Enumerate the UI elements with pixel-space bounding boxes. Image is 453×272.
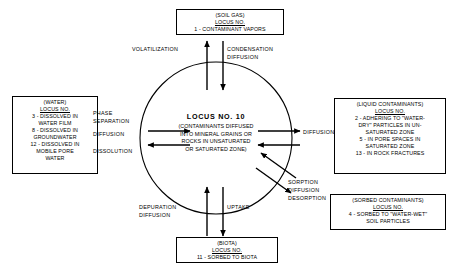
label-phase-separation: PHASE SEPARATION bbox=[93, 109, 129, 125]
box-biota-header: (BIOTA) bbox=[178, 240, 276, 247]
label-dissolution: DISSOLUTION bbox=[93, 147, 132, 155]
box-biota-locus-label: LOCUS NO. bbox=[178, 247, 276, 254]
box-water: (WATER) LOCUS NO. 3 - DISSOLVED IN WATER… bbox=[12, 96, 98, 174]
box-soil-gas-items: 1 - CONTAMINANT VAPORS bbox=[178, 26, 282, 33]
list-item: 12 - DISSOLVED IN MOBILE PORE WATER bbox=[14, 141, 96, 162]
box-biota-items: 11 - SORBED TO BIOTA bbox=[178, 254, 276, 261]
box-sorbed-contaminants: (SORBED CONTAMINANTS) LOCUS NO. 4 - SORB… bbox=[330, 194, 446, 230]
box-sorbed-contaminants-locus-label: LOCUS NO. bbox=[332, 204, 444, 211]
label-volatilization: VOLATILIZATION bbox=[132, 45, 178, 53]
list-item: 13 - IN ROCK FRACTURES bbox=[336, 150, 444, 157]
box-liquid-contaminants-items: 2 - ADHERING TO "WATER- DRY" PARTICLES I… bbox=[336, 115, 444, 157]
box-water-header: (WATER) bbox=[14, 99, 96, 106]
central-locus-subtitle: (CONTAMINANTS DIFFUSED INTO MINERAL GRAI… bbox=[150, 123, 282, 153]
list-item: 5 - IN PORE SPACES IN SATURATED ZONE bbox=[336, 136, 444, 150]
box-water-items: 3 - DISSOLVED IN WATER FILM 8 - DISSOLVE… bbox=[14, 113, 96, 162]
label-sorption-diffusion-desorption: SORPTION DIFFUSION DESORPTION bbox=[288, 178, 326, 202]
label-uptake: UPTAKE bbox=[227, 203, 250, 211]
list-item: 3 - DISSOLVED IN WATER FILM bbox=[14, 113, 96, 127]
label-condensation-diffusion: CONDENSATION DIFFUSION bbox=[227, 45, 273, 61]
box-sorbed-contaminants-items: 4 - SORBED TO "WATER-WET" SOIL PARTICLES bbox=[332, 211, 444, 225]
box-biota: (BIOTA) LOCUS NO. 11 - SORBED TO BIOTA bbox=[176, 237, 278, 263]
list-item: 8 - DISSOLVED IN GROUNDWATER bbox=[14, 127, 96, 141]
label-diffusion-left: DIFFUSION bbox=[93, 130, 124, 138]
diagram-canvas: LOCUS NO. 10 (CONTAMINANTS DIFFUSED INTO… bbox=[0, 0, 453, 272]
label-diffusion-right: DIFFUSION bbox=[303, 128, 334, 136]
list-item: 1 - CONTAMINANT VAPORS bbox=[178, 26, 282, 33]
box-liquid-contaminants-locus-label: LOCUS NO. bbox=[336, 108, 444, 115]
box-sorbed-contaminants-header: (SORBED CONTAMINANTS) bbox=[332, 197, 444, 204]
arrow-sorption-out bbox=[256, 168, 291, 193]
box-water-locus-label: LOCUS NO. bbox=[14, 106, 96, 113]
list-item: 4 - SORBED TO "WATER-WET" SOIL PARTICLES bbox=[332, 211, 444, 225]
box-liquid-contaminants-header: (LIQUID CONTAMINANTS) bbox=[336, 101, 444, 108]
list-item: 11 - SORBED TO BIOTA bbox=[178, 254, 276, 261]
box-liquid-contaminants: (LIQUID CONTAMINANTS) LOCUS NO. 2 - ADHE… bbox=[334, 98, 446, 174]
label-depuration-diffusion: DEPURATION DIFFUSION bbox=[139, 203, 176, 219]
central-locus-label: LOCUS NO. 10 (CONTAMINANTS DIFFUSED INTO… bbox=[150, 112, 282, 153]
list-item: 2 - ADHERING TO "WATER- DRY" PARTICLES I… bbox=[336, 115, 444, 136]
central-locus-title: LOCUS NO. 10 bbox=[150, 112, 282, 122]
box-soil-gas: (SOIL GAS) LOCUS NO. 1 - CONTAMINANT VAP… bbox=[176, 9, 284, 35]
box-soil-gas-locus-label: LOCUS NO. bbox=[178, 19, 282, 26]
arrow-desorption-in bbox=[261, 153, 296, 178]
box-soil-gas-header: (SOIL GAS) bbox=[178, 12, 282, 19]
